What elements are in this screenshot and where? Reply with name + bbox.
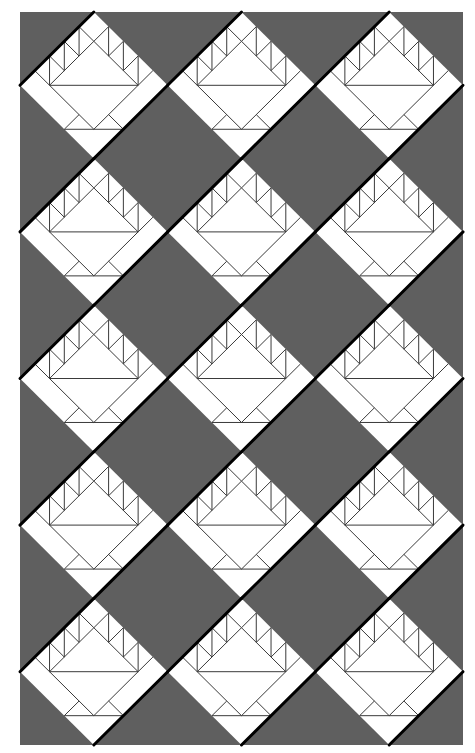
- blocks-layer: [20, 12, 463, 745]
- quilt-canvas: [0, 0, 475, 753]
- quilt-diagram: Basket quilt layout: [0, 0, 475, 753]
